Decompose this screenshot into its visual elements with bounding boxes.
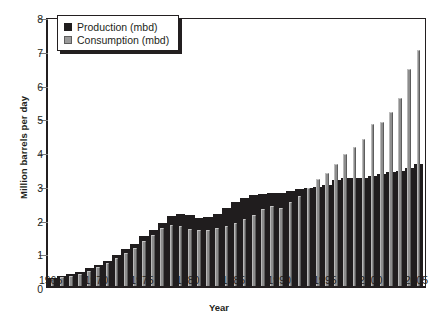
bar-group	[368, 19, 377, 286]
bar-group	[48, 19, 57, 286]
bar-consumption	[78, 274, 82, 286]
bar-consumption	[298, 196, 302, 286]
plot-area	[48, 19, 425, 286]
bar-group	[194, 19, 203, 286]
x-tick-label: 1995	[313, 274, 336, 286]
chart-legend: Production (mbd)Consumption (mbd)	[57, 15, 179, 51]
bar-consumption	[362, 139, 366, 286]
x-tick-label: 1970	[85, 274, 108, 286]
oil-production-consumption-chart: Million barrels per day 012345678 196519…	[0, 0, 438, 325]
bar-group	[405, 19, 414, 286]
bar-group	[94, 19, 103, 286]
x-tick-label: 1975	[130, 274, 153, 286]
bar-consumption	[371, 124, 375, 286]
bar-group	[322, 19, 331, 286]
bar-group	[267, 19, 276, 286]
bar-group	[304, 19, 313, 286]
bar-group	[350, 19, 359, 286]
bar-consumption	[316, 179, 320, 286]
bar-consumption	[261, 209, 265, 286]
x-axis-title: Year	[0, 302, 438, 313]
y-tick-label: 4	[37, 148, 43, 160]
bar-consumption	[170, 225, 174, 286]
x-tick-label: 1965	[39, 274, 62, 286]
bar-group	[240, 19, 249, 286]
legend-item: Production (mbd)	[64, 20, 169, 33]
x-tick-label: 2005	[405, 274, 428, 286]
bar-consumption	[353, 147, 357, 286]
bar-consumption	[124, 253, 128, 286]
bar-consumption	[334, 164, 338, 286]
bar-consumption	[215, 228, 219, 286]
legend-item: Consumption (mbd)	[64, 33, 169, 46]
bar-group	[231, 19, 240, 286]
bar-group	[332, 19, 341, 286]
bar-group	[213, 19, 222, 286]
bar-group	[277, 19, 286, 286]
bar-group	[313, 19, 322, 286]
y-axis-title: Million barrels per day	[18, 63, 29, 233]
bar-consumption	[343, 154, 347, 286]
bar-group	[75, 19, 84, 286]
bar-group	[386, 19, 395, 286]
bar-group	[258, 19, 267, 286]
bar-group	[414, 19, 423, 286]
bar-consumption	[115, 258, 119, 286]
bar-group	[112, 19, 121, 286]
bar-consumption	[389, 112, 393, 286]
bar-consumption	[206, 230, 210, 286]
y-tick-label: 5	[37, 114, 43, 126]
bar-consumption	[160, 228, 164, 286]
bar-group	[158, 19, 167, 286]
bar-group	[167, 19, 176, 286]
legend-swatch-icon	[64, 36, 72, 44]
bar-group	[139, 19, 148, 286]
bar-group	[286, 19, 295, 286]
y-tick-label: 6	[37, 81, 43, 93]
bar-group	[359, 19, 368, 286]
bar-group	[130, 19, 139, 286]
bar-consumption	[252, 215, 256, 286]
bar-consumption	[325, 173, 329, 286]
bar-group	[185, 19, 194, 286]
x-tick-label: 1980	[176, 274, 199, 286]
bar-group	[295, 19, 304, 286]
y-tick-label: 2	[37, 216, 43, 228]
bar-group	[396, 19, 405, 286]
y-tick-label: 1	[37, 249, 43, 261]
bar-group	[57, 19, 66, 286]
bar-consumption	[69, 276, 73, 286]
bar-consumption	[398, 98, 402, 286]
bar-group	[341, 19, 350, 286]
legend-swatch-icon	[64, 23, 72, 31]
bar-group	[377, 19, 386, 286]
bar-group	[176, 19, 185, 286]
bar-consumption	[307, 188, 311, 286]
bar-group	[222, 19, 231, 286]
bar-consumption	[417, 50, 421, 286]
x-tick-label: 2000	[359, 274, 382, 286]
plot-frame: 012345678	[46, 18, 426, 288]
bar-group	[121, 19, 130, 286]
x-tick-label: 1985	[222, 274, 245, 286]
y-tick-label: 7	[37, 47, 43, 59]
bar-group	[203, 19, 212, 286]
bar-group	[103, 19, 112, 286]
legend-label: Consumption (mbd)	[77, 34, 169, 46]
bar-group	[66, 19, 75, 286]
bar-group	[249, 19, 258, 286]
x-tick-label: 1990	[268, 274, 291, 286]
legend-label: Production (mbd)	[77, 21, 158, 33]
bar-consumption	[380, 122, 384, 286]
bar-consumption	[407, 69, 411, 286]
bar-group	[149, 19, 158, 286]
y-tick-label: 8	[37, 13, 43, 25]
y-tick-label: 3	[37, 182, 43, 194]
bar-group	[85, 19, 94, 286]
